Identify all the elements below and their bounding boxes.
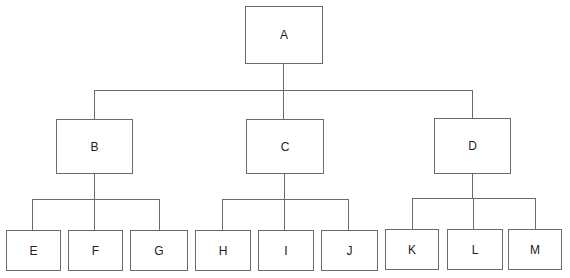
connector-to-b [94, 90, 95, 119]
node-f: F [68, 230, 123, 271]
connector-to-e [32, 199, 33, 230]
connector-a-down [283, 63, 284, 91]
connector-to-k [412, 198, 413, 229]
node-e: E [6, 230, 61, 271]
node-j-label: J [347, 244, 353, 258]
node-b: B [56, 119, 133, 174]
connector-c-down [284, 173, 285, 199]
node-l-label: L [472, 243, 479, 257]
connector-to-d [472, 90, 473, 119]
connector-to-c [283, 90, 284, 119]
node-a-label: A [280, 28, 288, 42]
node-i-label: I [284, 244, 287, 258]
node-m-label: M [530, 243, 540, 257]
node-g: G [130, 230, 188, 271]
node-c-label: C [281, 140, 290, 154]
connector-c-children-horizontal [222, 199, 349, 200]
node-h: H [195, 230, 251, 271]
connector-to-f [94, 199, 95, 230]
connector-to-h [222, 199, 223, 230]
connector-to-i [284, 199, 285, 230]
node-h-label: H [219, 244, 228, 258]
node-g-label: G [154, 244, 163, 258]
node-f-label: F [92, 244, 99, 258]
node-b-label: B [90, 140, 98, 154]
connector-to-l [473, 198, 474, 229]
connector-d-down [472, 173, 473, 199]
node-j: J [321, 230, 378, 271]
connector-to-g [159, 199, 160, 230]
node-c: C [246, 119, 324, 174]
node-d: D [434, 118, 511, 174]
node-d-label: D [468, 139, 477, 153]
node-k-label: K [408, 243, 416, 257]
node-i: I [258, 230, 314, 271]
node-k: K [385, 229, 439, 270]
connector-to-j [348, 199, 349, 230]
node-m: M [508, 229, 562, 270]
node-l: L [447, 229, 503, 270]
node-a: A [245, 6, 323, 64]
node-e-label: E [29, 244, 37, 258]
connector-b-down [94, 173, 95, 199]
connector-to-m [535, 198, 536, 229]
connector-d-children-horizontal [412, 198, 536, 199]
connector-b-children-horizontal [32, 199, 160, 200]
